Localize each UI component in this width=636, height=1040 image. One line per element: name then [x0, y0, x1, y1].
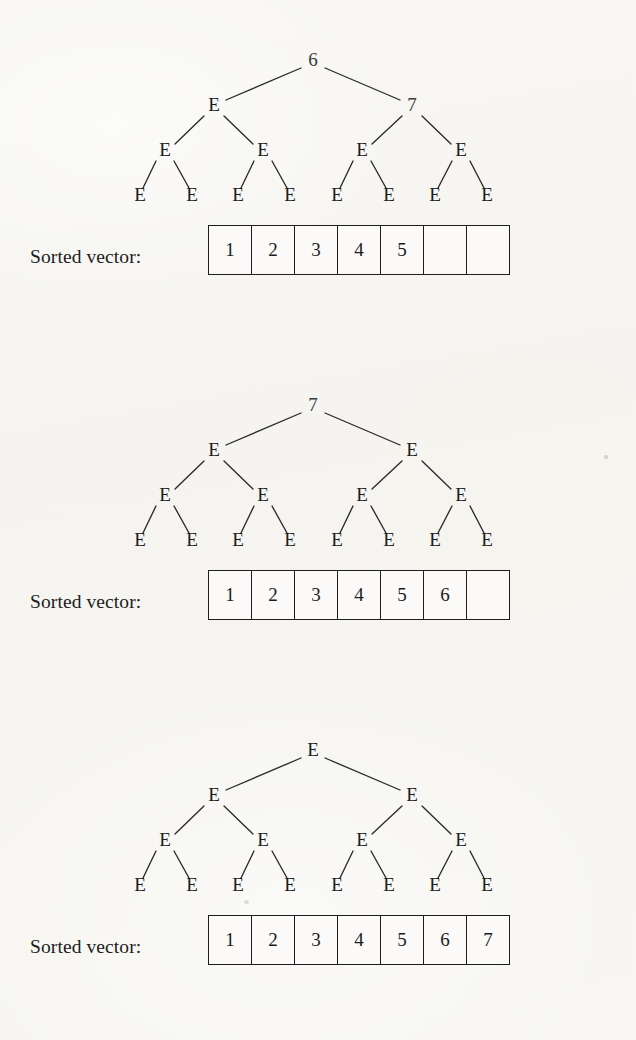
tree-edges-1: [143, 68, 484, 188]
tree-leaf-6: E: [429, 529, 441, 550]
sorted-vector-grid-2: 1 2 3 4 5 6: [208, 570, 510, 620]
tree-node-l1-1: E: [406, 784, 418, 805]
sorted-vector-row-1: Sorted vector: 1 2 3 4 5: [0, 225, 636, 289]
vector-cell: 1: [209, 226, 252, 274]
figure-panel-2: 7 E E E E E E E E E E E E E E Sorted vec…: [0, 385, 636, 634]
sorted-vector-label: Sorted vector:: [30, 246, 141, 268]
tree-leaf-2: E: [232, 184, 244, 205]
tree-nodes-2: 7 E E E E E E E E E E E E E E: [134, 394, 493, 550]
tree-leaf-0: E: [134, 529, 146, 550]
tree-node-l1-1: E: [406, 439, 418, 460]
vector-cell: 7: [467, 916, 510, 964]
binary-tree-diagram-3: E E E E E E E E E E E E E E E: [0, 730, 636, 915]
tree-node-root: E: [307, 739, 319, 760]
figure-panel-1: 6 E 7 E E E E E E E E E E E E Sorted vec…: [0, 40, 636, 289]
vector-cell: 6: [424, 571, 467, 619]
vector-cell: 3: [295, 226, 338, 274]
tree-leaf-3: E: [284, 874, 296, 895]
tree-node-l2-2: E: [356, 829, 368, 850]
tree-leaf-2: E: [232, 874, 244, 895]
tree-leaf-1: E: [186, 874, 198, 895]
vector-cell: 3: [295, 916, 338, 964]
tree-leaf-4: E: [331, 184, 343, 205]
tree-leaf-3: E: [284, 184, 296, 205]
sorted-vector-label: Sorted vector:: [30, 936, 141, 958]
tree-leaf-6: E: [429, 184, 441, 205]
tree-node-l2-2: E: [356, 484, 368, 505]
tree-leaf-5: E: [383, 874, 395, 895]
binary-tree-diagram-2: 7 E E E E E E E E E E E E E E: [0, 385, 636, 570]
tree-leaf-3: E: [284, 529, 296, 550]
tree-node-l2-0: E: [159, 829, 171, 850]
tree-node-l2-3: E: [455, 829, 467, 850]
tree-node-root: 7: [308, 394, 318, 415]
tree-node-l2-0: E: [159, 484, 171, 505]
tree-leaf-7: E: [481, 529, 493, 550]
vector-cell: 1: [209, 916, 252, 964]
tree-leaf-7: E: [481, 184, 493, 205]
vector-cell: 6: [424, 916, 467, 964]
sorted-vector-row-2: Sorted vector: 1 2 3 4 5 6: [0, 570, 636, 634]
tree-leaf-4: E: [331, 874, 343, 895]
tree-leaf-6: E: [429, 874, 441, 895]
tree-node-l1-0: E: [208, 784, 220, 805]
vector-cell: 3: [295, 571, 338, 619]
vector-cell-empty: [467, 226, 510, 274]
tree-node-l2-3: E: [455, 139, 467, 160]
sorted-vector-grid-3: 1 2 3 4 5 6 7: [208, 915, 510, 965]
tree-nodes-1: 6 E 7 E E E E E E E E E E E E: [134, 49, 493, 205]
tree-node-l2-1: E: [257, 829, 269, 850]
tree-node-l1-0: E: [208, 94, 220, 115]
tree-node-l2-2: E: [356, 139, 368, 160]
tree-leaf-0: E: [134, 874, 146, 895]
vector-cell: 4: [338, 571, 381, 619]
vector-cell: 2: [252, 226, 295, 274]
sorted-vector-label: Sorted vector:: [30, 591, 141, 613]
vector-cell: 5: [381, 571, 424, 619]
tree-node-l1-0: E: [208, 439, 220, 460]
tree-edges-3: [143, 758, 484, 878]
tree-leaf-7: E: [481, 874, 493, 895]
tree-edges-2: [143, 413, 484, 533]
tree-leaf-1: E: [186, 529, 198, 550]
vector-cell: 5: [381, 916, 424, 964]
tree-leaf-5: E: [383, 184, 395, 205]
tree-leaf-2: E: [232, 529, 244, 550]
sorted-vector-grid-1: 1 2 3 4 5: [208, 225, 510, 275]
vector-cell: 4: [338, 226, 381, 274]
tree-leaf-1: E: [186, 184, 198, 205]
tree-node-l1-1: 7: [407, 94, 417, 115]
tree-nodes-3: E E E E E E E E E E E E E E E: [134, 739, 493, 895]
tree-node-l2-1: E: [257, 139, 269, 160]
vector-cell-empty: [467, 571, 510, 619]
vector-cell: 5: [381, 226, 424, 274]
vector-cell: 2: [252, 571, 295, 619]
vector-cell: 2: [252, 916, 295, 964]
vector-cell: 1: [209, 571, 252, 619]
tree-leaf-0: E: [134, 184, 146, 205]
sorted-vector-row-3: Sorted vector: 1 2 3 4 5 6 7: [0, 915, 636, 979]
tree-node-root: 6: [308, 49, 318, 70]
figure-panel-3: E E E E E E E E E E E E E E E Sorted vec…: [0, 730, 636, 979]
vector-cell: 4: [338, 916, 381, 964]
tree-node-l2-3: E: [455, 484, 467, 505]
vector-cell-empty: [424, 226, 467, 274]
tree-leaf-4: E: [331, 529, 343, 550]
tree-node-l2-1: E: [257, 484, 269, 505]
binary-tree-diagram-1: 6 E 7 E E E E E E E E E E E E: [0, 40, 636, 225]
tree-node-l2-0: E: [159, 139, 171, 160]
tree-leaf-5: E: [383, 529, 395, 550]
